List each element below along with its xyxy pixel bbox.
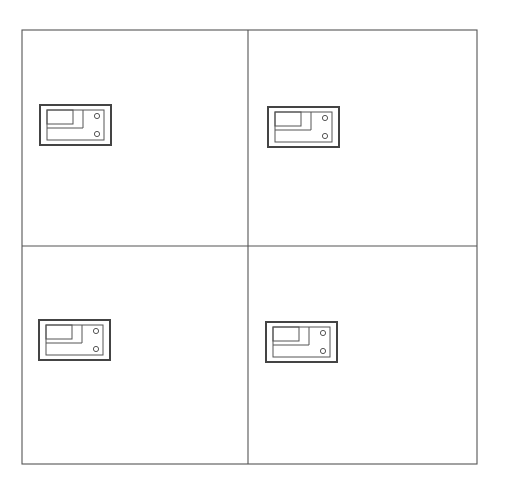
- device-plate-icon: [268, 107, 339, 147]
- device-plate-icon: [266, 322, 337, 362]
- device-hole-icon: [93, 346, 98, 351]
- device-hole-icon: [320, 330, 325, 335]
- diagram-canvas: [0, 0, 505, 487]
- device-hole-icon: [93, 328, 98, 333]
- device-hole-icon: [94, 113, 99, 118]
- device-hole-icon: [322, 115, 327, 120]
- device-hole-icon: [94, 131, 99, 136]
- device-outer-frame: [268, 107, 339, 147]
- device-outer-frame: [39, 320, 110, 360]
- outer-border: [22, 30, 477, 464]
- grid-frame: [22, 30, 477, 464]
- device-outer-frame: [266, 322, 337, 362]
- device-hole-icon: [320, 348, 325, 353]
- device-plate-icon: [40, 105, 111, 145]
- device-layer: [39, 105, 339, 362]
- device-plate-icon: [39, 320, 110, 360]
- device-outer-frame: [40, 105, 111, 145]
- device-hole-icon: [322, 133, 327, 138]
